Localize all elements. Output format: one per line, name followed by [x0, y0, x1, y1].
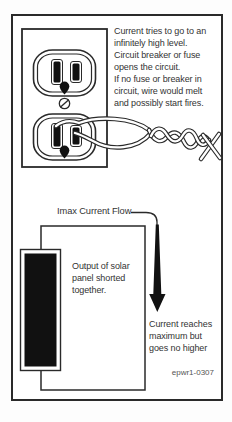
- solar-panel-caption: Output of solar panel shorted together.: [72, 260, 142, 296]
- down-arrow-icon: [149, 225, 165, 313]
- figure-id-label: epwr1-0307: [146, 368, 214, 377]
- figure: Current tries to go to an infinitely hig…: [0, 0, 232, 422]
- outlet-caption: Current tries to go to an infinitely hig…: [114, 25, 224, 109]
- imax-label: Imax Current Flow: [57, 206, 131, 217]
- outlet-illustration: [22, 29, 107, 167]
- solar-panel-illustration: [21, 250, 61, 371]
- current-max-caption: Current reaches maximum but goes no high…: [149, 318, 221, 354]
- outlet-top-receptacle: [34, 50, 96, 96]
- solar-panel-cell: [25, 254, 57, 367]
- outlet-screw-icon: [59, 98, 69, 108]
- imax-pointer-line: [131, 213, 157, 226]
